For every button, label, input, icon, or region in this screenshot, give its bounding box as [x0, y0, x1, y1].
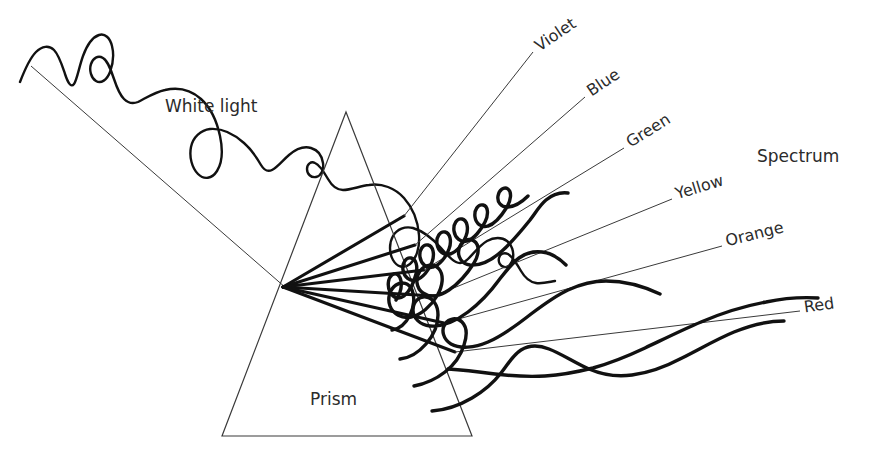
label-red: Red — [803, 293, 836, 316]
label-orange: Orange — [723, 218, 785, 251]
label-blue: Blue — [583, 64, 623, 100]
label-prism: Prism — [310, 389, 357, 409]
internal-ray-violet — [283, 216, 404, 287]
prism-dispersion-diagram: White light Prism Spectrum Violet Blue G… — [0, 0, 872, 456]
leader-line-blue — [415, 97, 585, 245]
leader-line-violet — [404, 52, 533, 216]
label-yellow: Yellow — [672, 171, 726, 204]
label-white-light: White light — [165, 96, 258, 116]
white-light-group — [20, 35, 555, 288]
label-green: Green — [622, 109, 673, 151]
wave-orange — [432, 321, 784, 411]
internal-ray-blue — [283, 245, 415, 287]
emergent-waves-group — [388, 188, 818, 411]
wave-red — [448, 298, 818, 377]
label-violet: Violet — [531, 14, 579, 55]
white-light-waveform — [20, 35, 555, 284]
label-spectrum: Spectrum — [757, 146, 839, 166]
